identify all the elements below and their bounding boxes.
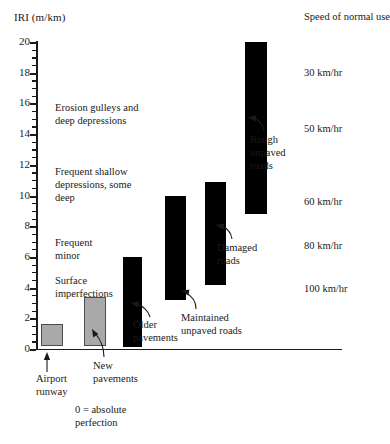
y-tick-label: 20 bbox=[4, 36, 30, 47]
y-tick-minor bbox=[32, 341, 36, 342]
y-tick-minor bbox=[32, 311, 36, 312]
callout-airport-runway: Airport runway bbox=[36, 372, 68, 398]
description-frequent-minor: Frequent minor bbox=[55, 236, 92, 262]
footnote: 0 = absolute perfection bbox=[75, 403, 126, 429]
y-tick-minor bbox=[32, 234, 36, 235]
speed-label-80kmh: 80 km/hr bbox=[304, 240, 342, 252]
y-tick-minor bbox=[32, 126, 36, 127]
speed-axis-title: Speed of normal use bbox=[304, 11, 390, 24]
y-tick-major-0 bbox=[30, 349, 36, 351]
description-frequent-shallow: Frequent shallow depressions, some deep bbox=[55, 165, 131, 204]
y-tick-minor bbox=[32, 172, 36, 173]
y-tick-minor bbox=[32, 57, 36, 58]
y-tick-major-14 bbox=[30, 134, 36, 136]
callout-new-pavements: New pavements bbox=[93, 359, 138, 385]
bar-rough-unpaved-roads bbox=[245, 42, 267, 214]
x-axis-line bbox=[36, 349, 342, 350]
y-tick-minor bbox=[32, 180, 36, 181]
y-tick-major-2 bbox=[30, 318, 36, 320]
y-tick-minor bbox=[32, 188, 36, 189]
y-tick-label: 8 bbox=[4, 220, 30, 231]
y-tick-minor bbox=[32, 219, 36, 220]
y-tick-minor bbox=[32, 149, 36, 150]
y-axis-line bbox=[36, 41, 38, 350]
y-tick-minor bbox=[32, 280, 36, 281]
y-tick-label: 16 bbox=[4, 97, 30, 108]
y-tick-minor bbox=[32, 203, 36, 204]
y-tick-minor bbox=[32, 265, 36, 266]
y-tick-minor bbox=[32, 242, 36, 243]
y-tick-label: 4 bbox=[4, 282, 30, 293]
bar-maintained-unpaved-roads bbox=[165, 196, 186, 300]
bar-airport-runway bbox=[41, 324, 63, 345]
description-surface: Surface imperfections bbox=[55, 274, 113, 300]
description-erosion: Erosion gulleys and deep depressions bbox=[55, 101, 138, 127]
callout-maintained-unpaved: Maintained unpaved roads bbox=[181, 311, 242, 337]
y-tick-minor bbox=[32, 65, 36, 66]
y-tick-minor bbox=[32, 303, 36, 304]
y-tick-minor bbox=[32, 249, 36, 250]
y-tick-minor bbox=[32, 272, 36, 273]
y-tick-label: 2 bbox=[4, 312, 30, 323]
y-tick-minor bbox=[32, 295, 36, 296]
y-tick-major-12 bbox=[30, 165, 36, 167]
y-tick-label: 18 bbox=[4, 67, 30, 78]
bar-damaged-roads bbox=[205, 182, 226, 285]
y-tick-minor bbox=[32, 96, 36, 97]
y-tick-labels: 20 18 16 14 12 10 8 6 4 2 0 bbox=[0, 0, 30, 444]
y-tick-major-4 bbox=[30, 288, 36, 290]
speed-label-50kmh: 50 km/hr bbox=[304, 123, 342, 135]
y-tick-minor bbox=[32, 211, 36, 212]
y-tick-minor bbox=[32, 157, 36, 158]
y-tick-label: 12 bbox=[4, 159, 30, 170]
y-tick-major-20 bbox=[30, 42, 36, 44]
y-tick-label: 6 bbox=[4, 251, 30, 262]
bar-new-pavements bbox=[84, 297, 106, 346]
y-tick-minor bbox=[32, 119, 36, 120]
y-tick-major-6 bbox=[30, 257, 36, 259]
y-tick-major-18 bbox=[30, 73, 36, 75]
y-tick-label: 0 bbox=[4, 343, 30, 354]
y-tick-major-10 bbox=[30, 196, 36, 198]
y-tick-major-16 bbox=[30, 103, 36, 105]
y-tick-minor bbox=[32, 80, 36, 81]
speed-label-60kmh: 60 km/hr bbox=[304, 196, 342, 208]
y-tick-minor bbox=[32, 88, 36, 89]
y-tick-major-8 bbox=[30, 226, 36, 228]
speed-label-30kmh: 30 km/hr bbox=[304, 67, 342, 79]
y-tick-minor bbox=[32, 142, 36, 143]
y-tick-minor bbox=[32, 111, 36, 112]
y-tick-minor bbox=[32, 50, 36, 51]
speed-label-100kmh: 100 km/hr bbox=[304, 283, 347, 295]
callout-damaged-roads: Damaged roads bbox=[217, 241, 257, 267]
y-tick-label: 10 bbox=[4, 190, 30, 201]
callout-older-pavements: Older pavements bbox=[133, 318, 178, 344]
y-tick-minor bbox=[32, 326, 36, 327]
y-tick-label: 14 bbox=[4, 128, 30, 139]
callout-rough-unpaved: Rough unpaved roads bbox=[250, 133, 286, 172]
y-tick-minor bbox=[32, 334, 36, 335]
